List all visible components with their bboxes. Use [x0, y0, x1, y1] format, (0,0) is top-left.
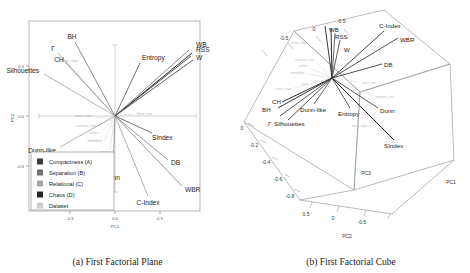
legend-swatch [37, 159, 43, 165]
pc1-tick-label: 0 [313, 26, 316, 32]
axis-title-pc1: PC1 [446, 179, 456, 185]
legend-swatch [37, 192, 43, 198]
pc2-tick-label: -0.5 [358, 219, 367, 225]
dataset-label: linear_slope [75, 114, 92, 118]
vector-label-c-index: C-Index [136, 199, 160, 206]
legend-item-dataset[interactable]: Dataset [37, 203, 69, 209]
x-tick-label: -0.5 [66, 216, 74, 221]
vector-label-rss-3d: RSS [335, 33, 348, 40]
pc2-tick-label: 0.5 [303, 211, 310, 217]
vector-label-wb: WB [196, 41, 207, 48]
x-axis-ticks: -0.5 0.0 0.5 PC1 [66, 211, 163, 229]
cube-plot-svg: 0.5 0 -0.5 0 -0.2 -0.4 -0.6 -0.8 [232, 0, 470, 245]
legend-swatch [37, 170, 43, 176]
vector-label-gamma-3d: Γ [268, 120, 272, 127]
vector-label-ch: CH [54, 56, 64, 63]
plane-plot-svg: 0.5 0.0 -0.5 PC2 -0.5 0.0 0.5 PC1 [0, 0, 235, 245]
vector-silhouettes [44, 74, 115, 116]
vector-label-entropy: Entropy [142, 54, 165, 62]
legend-label: Dataset [49, 203, 69, 209]
legend-item-chaos[interactable]: Chaos (D) [37, 192, 75, 198]
vector-label-entropy-3d: Entropy [338, 110, 360, 117]
vector-label-dunn-3d: Dunn [380, 107, 395, 114]
caption-panel-b: (b) First Factorial Cube [232, 257, 470, 267]
x-axis-title: PC1 [111, 224, 120, 229]
dataset-label: outliers [299, 64, 309, 68]
vector-entropy [115, 63, 140, 116]
variable-vector-labels-3d: RSS W WB C-Index WBR DB Dunn Entropy Dun… [262, 22, 415, 149]
panel-first-factorial-plane: 0.5 0.0 -0.5 PC2 -0.5 0.0 0.5 PC1 [0, 0, 235, 245]
pc3-tick-label: -0.2 [250, 142, 259, 148]
panel-first-factorial-cube: 0.5 0 -0.5 0 -0.2 -0.4 -0.6 -0.8 [232, 0, 470, 245]
vector-label-dunn-like-3d: Dunn-like [300, 106, 327, 113]
dataset-label: nonlinear_size [295, 58, 314, 62]
dataset-label: linear_slope [276, 87, 292, 91]
axis-title-pc2: PC2 [342, 233, 352, 239]
vector-label-w: W [196, 54, 203, 61]
dataset-label: noise [301, 82, 308, 86]
vector-wbr-3d [332, 38, 398, 78]
vector-label-sindex: SIndex [152, 134, 173, 141]
vector-label-db-3d: DB [384, 61, 393, 68]
x-tick-label: 0.0 [112, 216, 118, 221]
dataset-label: linear_size [137, 112, 152, 116]
caption-panel-a: (a) First Factorial Plane [0, 257, 235, 267]
vector-label-silhouettes: Silhouettes [6, 67, 39, 74]
legend-label: Relational (C) [49, 181, 83, 187]
vector-c-index [115, 116, 148, 196]
pc3-tick-label: -0.4 [262, 159, 271, 165]
vector-w [115, 60, 193, 116]
pc1-tick-label: -0.5 [280, 35, 289, 41]
dataset-label: linear_slope [352, 124, 368, 128]
legend-label: Chaos (D) [49, 192, 75, 198]
y-tick-label: 0.0 [18, 114, 24, 119]
vector-label-silhouettes-3d: Silhouettes [274, 120, 305, 127]
dataset-label: linear_slope [292, 41, 308, 45]
legend: Compactness (A) Separation (B) Relationa… [31, 152, 114, 210]
pc3-tick-label: 0 [241, 125, 244, 131]
vector-label-sindex-3d: SIndex [384, 142, 404, 149]
vector-label-db: DB [171, 159, 181, 166]
dataset-label: linear_size [362, 81, 376, 85]
legend-label: Compactness (A) [49, 159, 92, 165]
y-tick-label: -0.5 [17, 164, 25, 169]
vector-label-ch-3d: CH [272, 98, 281, 105]
pc3-tick-label: -0.6 [274, 176, 283, 182]
axis-title-pc3: PC3 [361, 170, 371, 176]
vector-label-wbr-3d: WBR [400, 36, 415, 43]
vector-wb [115, 56, 191, 116]
vector-label-w-3d: W [344, 46, 350, 53]
vector-label-bh-3d: BH [262, 106, 271, 113]
y-axis-ticks: 0.5 0.0 -0.5 PC2 [10, 64, 29, 169]
pc3-tick-label: -0.8 [286, 193, 295, 199]
figure-container: 0.5 0.0 -0.5 PC2 -0.5 0.0 0.5 PC1 [0, 0, 470, 273]
vector-label-wbr: WBR [185, 186, 201, 193]
dataset-label: embedded [87, 139, 102, 143]
dataset-label: outliers [89, 131, 99, 135]
pc2-tick-label: 0 [332, 215, 335, 221]
legend-swatch [37, 203, 43, 209]
dataset-vector-labels-3d: nonlinear_size outliers embedded noise l… [276, 41, 394, 128]
vector-label-bh: BH [67, 33, 76, 40]
y-axis-title: PC2 [10, 113, 15, 122]
vector-label-wb-3d: WB [329, 26, 339, 33]
vector-label-c-index-3d: C-Index [379, 22, 402, 29]
vector-wbr [115, 116, 182, 186]
dataset-label: nonlinear_size [76, 124, 96, 128]
pc1-tick-label: 0.5 [339, 18, 346, 24]
x-tick-label: 0.5 [157, 216, 163, 221]
legend-swatch [37, 181, 43, 187]
legend-label: Separation (B) [49, 170, 85, 176]
dataset-label: nonlinear_size [375, 95, 394, 99]
vector-label-gamma: Γ [51, 45, 55, 52]
dataset-label: embedded [290, 71, 304, 75]
axis-pc2-ticks [310, 202, 390, 219]
